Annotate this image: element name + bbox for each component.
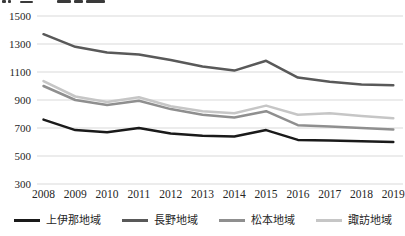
y-tick-label: 500 bbox=[15, 150, 32, 162]
y-axis-labels: 300500700900110013001500 bbox=[9, 10, 32, 190]
legend-item-kamiina: 上伊那地域 bbox=[14, 215, 101, 226]
x-tick-label: 2008 bbox=[32, 188, 55, 200]
legend-label-nagano: 長野地域 bbox=[154, 215, 198, 226]
x-tick-label: 2015 bbox=[255, 188, 278, 200]
x-tick-label: 2011 bbox=[128, 188, 151, 200]
legend-label-kamiina: 上伊那地域 bbox=[46, 215, 101, 226]
chart-screenshot: 3005007009001100130015002008200920102011… bbox=[0, 0, 405, 236]
legend-label-matsumoto: 松本地域 bbox=[251, 215, 295, 226]
legend-swatch-kamiina bbox=[14, 219, 40, 222]
x-tick-label: 2010 bbox=[96, 188, 119, 200]
series-line-nagano bbox=[44, 34, 394, 85]
y-tick-label: 900 bbox=[15, 94, 32, 106]
legend-label-suwa: 諏訪地域 bbox=[348, 215, 392, 226]
x-tick-label: 2013 bbox=[191, 188, 214, 200]
legend-item-suwa: 諏訪地域 bbox=[316, 215, 392, 226]
chart-legend: 上伊那地域長野地域松本地域諏訪地域 bbox=[0, 209, 405, 231]
series-line-kamiina bbox=[44, 120, 394, 142]
y-tick-label: 1100 bbox=[9, 66, 31, 78]
series-line-matsumoto bbox=[44, 86, 394, 129]
x-tick-label: 2009 bbox=[64, 188, 87, 200]
x-tick-label: 2012 bbox=[159, 188, 182, 200]
x-tick-label: 2016 bbox=[286, 188, 309, 200]
legend-item-matsumoto: 松本地域 bbox=[219, 215, 295, 226]
y-tick-label: 700 bbox=[15, 122, 32, 134]
x-tick-label: 2017 bbox=[318, 188, 341, 200]
legend-item-nagano: 長野地域 bbox=[122, 215, 198, 226]
y-tick-label: 1500 bbox=[9, 10, 32, 22]
x-tick-label: 2018 bbox=[350, 188, 373, 200]
line-chart: 3005007009001100130015002008200920102011… bbox=[0, 0, 405, 207]
x-axis-labels: 2008200920102011201220132014201520162017… bbox=[32, 188, 405, 200]
x-tick-label: 2019 bbox=[382, 188, 405, 200]
y-tick-label: 1300 bbox=[9, 38, 32, 50]
y-tick-label: 300 bbox=[15, 178, 32, 190]
legend-swatch-nagano bbox=[122, 219, 148, 222]
legend-swatch-matsumoto bbox=[219, 219, 245, 222]
x-tick-label: 2014 bbox=[223, 188, 246, 200]
legend-swatch-suwa bbox=[316, 219, 342, 222]
